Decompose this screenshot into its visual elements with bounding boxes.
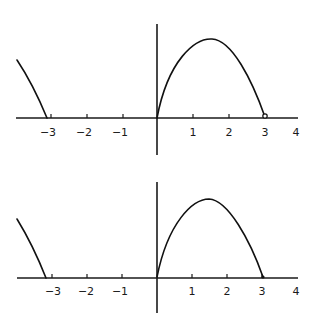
tick-label: 2 <box>224 285 231 298</box>
tick-label: 2 <box>226 126 233 139</box>
arch-curve <box>157 199 263 277</box>
tick-label: 4 <box>293 285 300 298</box>
tick-label: 4 <box>293 126 300 139</box>
tick-label: 1 <box>190 126 197 139</box>
tick-label: −2 <box>78 285 94 298</box>
filled-endpoint <box>261 275 264 278</box>
left-branch-curve <box>17 60 47 118</box>
open-endpoint <box>263 114 267 118</box>
tick-label: −3 <box>45 285 61 298</box>
tick-label: −1 <box>112 126 128 139</box>
top-graph: −3 −2 −1 1 2 3 4 <box>16 24 300 155</box>
bottom-graph: −3 −2 −1 1 2 3 4 <box>17 182 300 313</box>
tick-label: 3 <box>259 285 266 298</box>
graphs-figure: −3 −2 −1 1 2 3 4 −3 −2 −1 1 2 3 4 <box>0 0 317 324</box>
tick-label: −3 <box>40 126 56 139</box>
tick-label: −1 <box>112 285 128 298</box>
tick-label: −2 <box>76 126 92 139</box>
arch-curve <box>157 39 265 118</box>
left-branch-curve <box>17 219 46 278</box>
tick-label: 3 <box>262 126 269 139</box>
tick-label: 1 <box>189 285 196 298</box>
